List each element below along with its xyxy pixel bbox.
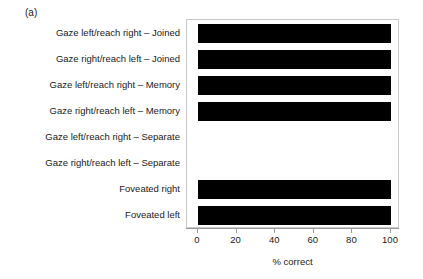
x-axis-line xyxy=(186,228,399,229)
bars-container xyxy=(187,20,398,227)
x-axis-tick-mark xyxy=(236,228,237,233)
y-axis-tick-label: Foveated left xyxy=(14,209,180,220)
y-axis-tick-label: Gaze left/reach right – Memory xyxy=(14,79,180,90)
bar-row xyxy=(187,203,398,229)
x-axis-tick-label: 40 xyxy=(254,234,294,245)
bar xyxy=(198,206,391,225)
x-axis-tick-label: 60 xyxy=(293,234,333,245)
bar-row xyxy=(187,72,398,98)
y-axis-tick-label: Gaze right/reach left – Separate xyxy=(14,157,180,168)
plot-area xyxy=(186,19,399,228)
x-axis-tick-mark xyxy=(390,228,391,233)
bar-row xyxy=(187,177,398,203)
bar-row xyxy=(187,46,398,72)
y-axis-tick-label: Gaze right/reach left – Joined xyxy=(14,53,180,64)
x-axis-tick-label: 20 xyxy=(216,234,256,245)
x-axis-tick-mark xyxy=(274,228,275,233)
y-axis-tick-label: Gaze left/reach right – Joined xyxy=(14,27,180,38)
bar-row xyxy=(187,151,398,177)
x-axis-tick-label: 100 xyxy=(370,234,410,245)
panel-label: (a) xyxy=(25,7,37,19)
x-axis-tick-label: 80 xyxy=(331,234,371,245)
bar xyxy=(198,24,391,43)
x-axis-tick-mark xyxy=(197,228,198,233)
bar-row xyxy=(187,20,398,46)
x-axis-title: % correct xyxy=(186,256,399,267)
y-axis-tick-label: Gaze left/reach right – Separate xyxy=(14,131,180,142)
x-axis-tick-mark xyxy=(313,228,314,233)
x-axis-tick-label: 0 xyxy=(177,234,217,245)
x-axis-tick-mark xyxy=(351,228,352,233)
figure-panel-a: (a) Gaze left/reach right – JoinedGaze r… xyxy=(0,0,423,279)
y-axis-tick-label: Foveated right xyxy=(14,183,180,194)
bar xyxy=(198,180,391,199)
bar-row xyxy=(187,98,398,124)
y-axis-category-labels: Gaze left/reach right – JoinedGaze right… xyxy=(14,19,180,228)
y-axis-tick-label: Gaze right/reach left – Memory xyxy=(14,105,180,116)
bar-row xyxy=(187,125,398,151)
bar xyxy=(198,102,391,121)
bar xyxy=(198,50,391,69)
bar xyxy=(198,76,391,95)
